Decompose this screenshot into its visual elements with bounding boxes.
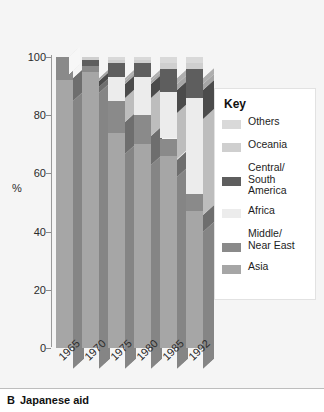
legend-swatch: [222, 120, 241, 129]
legend-swatch: [222, 143, 241, 152]
bar-segment: [108, 133, 125, 348]
bar-segment: [108, 101, 125, 133]
bar-segment: [82, 66, 99, 72]
bar-segment: [82, 60, 99, 66]
legend-label: Asia: [248, 261, 268, 273]
caption-divider: [0, 388, 324, 389]
bar-segment: [134, 115, 151, 144]
x-axis: 196519701975198019851992: [40, 346, 240, 390]
bar-segment: [160, 92, 177, 139]
bar-front-face: [134, 57, 151, 348]
bar-1965[interactable]: [56, 57, 73, 348]
bar-segment: [108, 63, 125, 78]
caption-letter: B: [7, 394, 15, 406]
y-axis-tick-mark: [46, 115, 51, 116]
bar-segment: [134, 77, 151, 115]
legend-label: Oceania: [248, 139, 287, 151]
bar-1985[interactable]: [160, 57, 177, 348]
figure-panel: 020406080100 % 196519701975198019851992 …: [0, 0, 324, 412]
bar-segment: [186, 69, 203, 98]
bar-1980[interactable]: [134, 57, 151, 348]
bar-segment: [186, 57, 203, 63]
y-axis-tick-mark: [46, 290, 51, 291]
bar-segment: [160, 156, 177, 348]
bar-segment: [134, 57, 151, 60]
y-axis-tick-mark: [46, 173, 51, 174]
bar-segment: [160, 57, 177, 63]
bar-segment: [186, 194, 203, 211]
bar-segment: [186, 63, 203, 69]
bar-front-face: [108, 57, 125, 348]
y-axis-tick-mark: [46, 348, 51, 349]
bar-front-face: [186, 57, 203, 348]
bar-1975[interactable]: [108, 57, 125, 348]
y-axis-tick-label: 100: [12, 52, 46, 62]
legend-title: Key: [224, 97, 246, 111]
y-axis-tick-label: 20: [12, 285, 46, 295]
y-axis-label: %: [12, 182, 22, 194]
y-axis-tick-mark: [46, 232, 51, 233]
bar-segment: [56, 80, 73, 348]
legend-swatch: [222, 265, 241, 274]
bar-segment-side: [203, 109, 214, 215]
bar-1970[interactable]: [82, 57, 99, 348]
bar-front-face: [160, 57, 177, 348]
bar-segment: [134, 144, 151, 348]
bar-segment: [160, 69, 177, 92]
legend-box: Key OthersOceaniaCentral/ South AmericaA…: [214, 88, 316, 300]
bar-segment: [82, 72, 99, 348]
bar-1992[interactable]: [186, 57, 203, 348]
legend-label: Others: [248, 116, 280, 128]
y-axis: 020406080100: [8, 0, 46, 388]
bar-segment: [186, 98, 203, 194]
y-axis-tick-label: 60: [12, 168, 46, 178]
bar-segment: [160, 139, 177, 156]
y-axis-tick-mark: [46, 57, 51, 58]
caption-text: Japanese aid: [20, 394, 89, 406]
chart-plot-area: 020406080100 % 196519701975198019851992 …: [0, 0, 324, 388]
legend-swatch: [222, 177, 241, 186]
figure-caption: B Japanese aid: [0, 388, 324, 412]
legend-label: Middle/ Near East: [248, 228, 295, 251]
legend-swatch: [222, 243, 241, 252]
bar-segment: [186, 211, 203, 348]
bar-front-face: [82, 57, 99, 348]
y-axis-tick-label: 80: [12, 110, 46, 120]
bar-segment: [108, 60, 125, 63]
y-axis-tick-label: 40: [12, 227, 46, 237]
bar-segment: [108, 77, 125, 100]
bar-segment: [108, 57, 125, 60]
bar-side-face: [203, 68, 214, 369]
bar-top-face: [69, 47, 80, 75]
legend-label: Central/ South America: [248, 162, 287, 197]
legend-swatch: [222, 209, 241, 218]
bar-segment: [134, 63, 151, 78]
bar-group: [52, 36, 212, 348]
bar-segment: [134, 60, 151, 63]
bar-segment: [160, 63, 177, 69]
bar-segment: [82, 57, 99, 60]
legend-label: Africa: [248, 205, 275, 217]
bar-front-face: [56, 57, 73, 348]
